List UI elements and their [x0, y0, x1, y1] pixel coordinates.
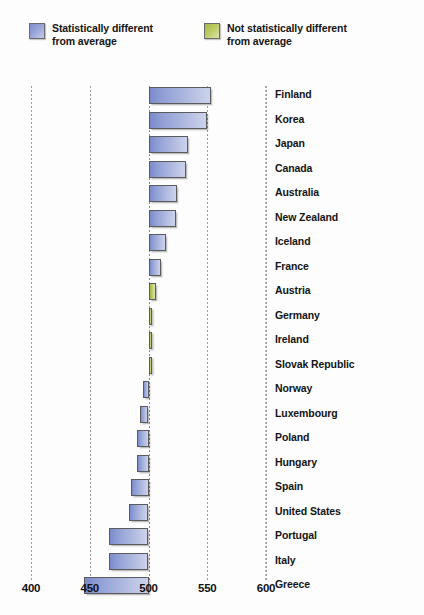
bar-row: Portugal [0, 525, 424, 550]
category-label-portugal: Portugal [275, 529, 317, 541]
category-label-spain: Spain [275, 480, 303, 492]
category-label-ireland: Ireland [275, 333, 309, 345]
bar-row: Hungary [0, 452, 424, 477]
bar-slovak-republic[interactable] [149, 357, 152, 374]
bar-row: Australia [0, 182, 424, 207]
bar-germany[interactable] [149, 308, 153, 325]
category-label-austria: Austria [275, 284, 310, 296]
x-tick-600: 600 [257, 582, 276, 594]
category-label-korea: Korea [275, 113, 304, 125]
bar-luxembourg[interactable] [140, 406, 148, 423]
bar-row: Iceland [0, 231, 424, 256]
bar-row: Germany [0, 305, 424, 330]
category-label-luxembourg: Luxembourg [275, 407, 338, 419]
bar-canada[interactable] [149, 161, 187, 178]
category-label-poland: Poland [275, 431, 309, 443]
bar-row: Canada [0, 158, 424, 183]
bar-row: Japan [0, 133, 424, 158]
bar-poland[interactable] [137, 430, 149, 447]
bar-finland[interactable] [149, 87, 211, 104]
x-tick-450: 450 [80, 582, 99, 594]
x-axis: 400450500550600 [0, 582, 424, 606]
bar-norway[interactable] [143, 381, 149, 398]
chart-legend: Statistically different from average Not… [0, 22, 424, 64]
bar-row: Slovak Republic [0, 354, 424, 379]
bar-italy[interactable] [109, 553, 149, 570]
blue-swatch-icon [29, 23, 45, 39]
bar-row: Italy [0, 550, 424, 575]
category-label-slovak-republic: Slovak Republic [275, 358, 355, 370]
bar-iceland[interactable] [149, 234, 167, 251]
category-label-norway: Norway [275, 382, 312, 394]
bar-new-zealand[interactable] [149, 210, 176, 227]
plot-area: FinlandKoreaJapanCanadaAustraliaNew Zeal… [0, 78, 424, 580]
category-label-hungary: Hungary [275, 456, 317, 468]
category-label-canada: Canada [275, 162, 312, 174]
category-label-japan: Japan [275, 137, 305, 149]
category-label-australia: Australia [275, 186, 319, 198]
bar-united-states[interactable] [129, 504, 149, 521]
category-label-new-zealand: New Zealand [275, 211, 338, 223]
category-label-italy: Italy [275, 554, 296, 566]
bar-row: New Zealand [0, 207, 424, 232]
bar-row: United States [0, 501, 424, 526]
legend-label-statistically-different: Statistically different from average [52, 22, 153, 47]
bar-korea[interactable] [149, 112, 208, 129]
x-tick-500: 500 [139, 582, 158, 594]
bar-row: France [0, 256, 424, 281]
green-swatch-icon [204, 23, 220, 39]
bar-row: Korea [0, 109, 424, 134]
category-label-france: France [275, 260, 309, 272]
bar-australia[interactable] [149, 185, 177, 202]
bar-ireland[interactable] [149, 332, 153, 349]
bar-row: Spain [0, 476, 424, 501]
legend-label-not-statistically-different: Not statistically different from average [227, 22, 347, 47]
category-label-united-states: United States [275, 505, 341, 517]
bar-row: Austria [0, 280, 424, 305]
x-tick-400: 400 [22, 582, 41, 594]
legend-item-not-statistically-different: Not statistically different from average [204, 22, 347, 47]
bar-hungary[interactable] [137, 455, 149, 472]
bar-japan[interactable] [149, 136, 189, 153]
category-label-germany: Germany [275, 309, 320, 321]
bar-austria[interactable] [149, 283, 156, 300]
category-label-iceland: Iceland [275, 235, 310, 247]
bar-portugal[interactable] [109, 528, 149, 545]
bar-row: Ireland [0, 329, 424, 354]
bar-france[interactable] [149, 259, 162, 276]
bar-spain[interactable] [131, 479, 149, 496]
bar-row: Poland [0, 427, 424, 452]
category-label-finland: Finland [275, 88, 312, 100]
x-tick-550: 550 [198, 582, 217, 594]
chart-page: Statistically different from average Not… [0, 0, 424, 615]
bar-row: Norway [0, 378, 424, 403]
legend-item-statistically-different: Statistically different from average [29, 22, 153, 47]
bar-row: Finland [0, 84, 424, 109]
bar-row: Luxembourg [0, 403, 424, 428]
